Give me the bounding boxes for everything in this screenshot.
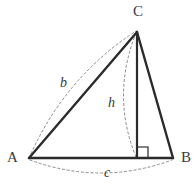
side-length-label-c: c xyxy=(104,166,110,180)
side-length-label-b: b xyxy=(60,76,67,90)
vertex-label-b: B xyxy=(181,150,191,165)
vertex-label-a: A xyxy=(7,150,18,165)
arc-altitude-h xyxy=(124,33,137,157)
right-angle-marker xyxy=(137,147,148,158)
geometry-figure: A B C b h c xyxy=(0,0,196,190)
vertex-label-c: C xyxy=(133,4,143,19)
arc-side-c xyxy=(30,160,172,173)
side-cb-line xyxy=(137,32,173,158)
altitude-length-label-h: h xyxy=(108,96,115,110)
side-ac-line xyxy=(29,32,137,158)
triangle-diagram-svg xyxy=(0,0,196,190)
